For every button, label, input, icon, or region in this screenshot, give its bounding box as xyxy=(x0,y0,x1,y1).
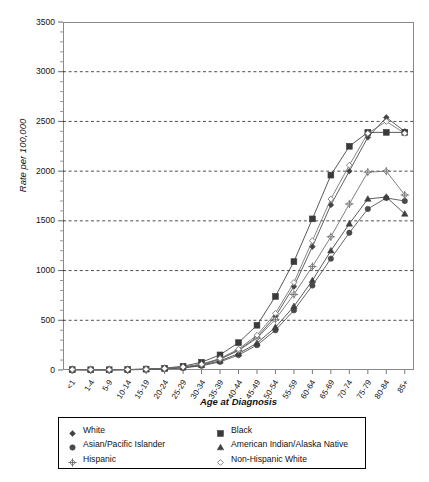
legend-marker-icon xyxy=(215,425,226,436)
legend-item-label: American Indian/Alaska Native xyxy=(231,440,348,449)
legend-item-label: Non-Hispanic White xyxy=(231,455,307,464)
legend-item-label: Asian/Pacific Islander xyxy=(83,440,165,449)
chart-graphics xyxy=(0,0,429,482)
legend-item: White xyxy=(67,425,215,436)
legend-marker-icon xyxy=(215,454,226,465)
legend-item-label: Black xyxy=(231,426,252,435)
legend-marker-icon xyxy=(67,439,78,450)
legend-item: American Indian/Alaska Native xyxy=(215,439,361,450)
chart-series xyxy=(69,115,407,373)
legend-item: Hispanic xyxy=(67,454,215,465)
legend-item-label: Hispanic xyxy=(83,455,116,464)
chart-container: Rate per 100,000 05001000150020002500300… xyxy=(0,0,429,482)
legend-item: Non-Hispanic White xyxy=(215,454,361,465)
legend-marker-icon xyxy=(67,454,78,465)
chart-series xyxy=(69,129,407,372)
legend-item: Asian/Pacific Islander xyxy=(67,439,215,450)
legend-marker-icon xyxy=(67,425,78,436)
legend-marker-icon xyxy=(215,439,226,450)
legend-item: Black xyxy=(215,425,361,436)
legend-item-label: White xyxy=(83,426,105,435)
chart-legend: WhiteBlackAsian/Pacific IslanderAmerican… xyxy=(58,417,366,469)
